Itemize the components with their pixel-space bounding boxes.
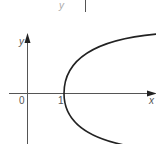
parabola-diagram: y y x 0 1 [0, 0, 156, 144]
parabola-curve [64, 34, 156, 144]
y-axis-arrow-icon [25, 33, 31, 43]
y-axis-label: y [18, 36, 25, 47]
origin-label: 0 [19, 95, 25, 106]
x-tick-label-1: 1 [58, 95, 64, 106]
x-axis-label: x [148, 95, 155, 106]
top-fragment-label: y [58, 0, 65, 11]
